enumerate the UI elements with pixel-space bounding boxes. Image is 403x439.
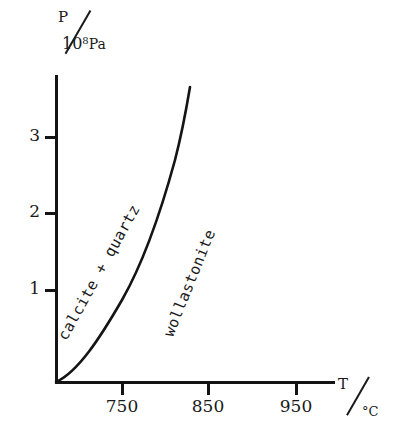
y-axis-tick-3	[45, 136, 56, 139]
x-axis-tick-950	[295, 384, 298, 395]
x-axis-label: T °C	[336, 374, 400, 432]
plot-area: 3 2 1 750 850 950 calcite + quartz wolla…	[0, 0, 403, 439]
region-label-calcite-quartz: calcite + quartz	[54, 201, 144, 343]
x-axis-tick-label-850: 850	[178, 398, 238, 415]
y-axis-tick-2	[45, 212, 56, 215]
y-axis-tick-1	[45, 289, 56, 292]
x-axis-tick-label-950: 950	[266, 398, 326, 415]
x-axis-label-unit: °C	[362, 404, 378, 419]
y-axis-tick-label-1: 1	[22, 280, 40, 297]
x-axis-tick-850	[207, 384, 210, 395]
x-axis-label-denominator: °C	[362, 398, 378, 419]
x-axis-tick-label-750: 750	[92, 398, 152, 415]
y-axis-line	[55, 75, 58, 384]
chart-figure: P 108Pa 3 2 1 750 850 950 calcite + quar…	[0, 0, 403, 439]
x-axis-tick-750	[121, 384, 124, 395]
x-axis-line	[55, 381, 335, 384]
y-axis-tick-label-2: 2	[22, 203, 40, 220]
region-label-wollastonite: wollastonite	[160, 227, 220, 340]
y-axis-tick-label-3: 3	[22, 127, 40, 144]
